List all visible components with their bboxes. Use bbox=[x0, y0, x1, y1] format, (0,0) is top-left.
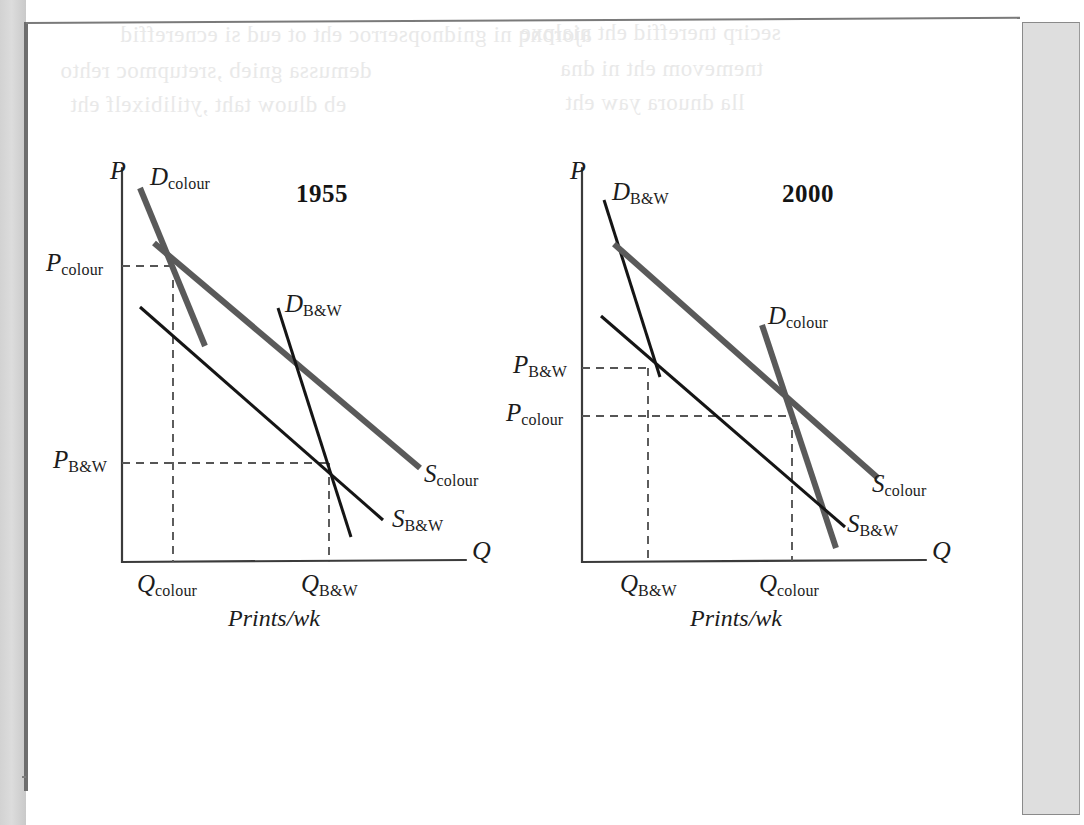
tick-label-q-bw-1955: QB&W bbox=[301, 570, 358, 600]
curve-s-bw-2000 bbox=[601, 316, 845, 527]
panel-1955-curves bbox=[140, 188, 420, 537]
curve-d-colour-2000 bbox=[762, 325, 836, 548]
tick-label-p-colour-1955: Pcolour bbox=[46, 249, 103, 279]
curve-d-bw-2000 bbox=[604, 200, 660, 377]
tick-label-q-colour-1955: Qcolour bbox=[137, 570, 197, 600]
tick-label-q-bw-2000: QB&W bbox=[620, 570, 677, 600]
tick-symbol: P bbox=[513, 351, 528, 378]
curve-label-symbol: D bbox=[612, 178, 630, 205]
curve-label-s-bw-2000: SB&W bbox=[847, 510, 898, 540]
curve-label-d-colour-1955: Dcolour bbox=[150, 163, 210, 193]
panel-2000-guides bbox=[582, 368, 792, 562]
caption-1955: Prints/wk bbox=[228, 605, 320, 632]
curve-label-subscript: colour bbox=[885, 482, 927, 499]
tick-subscript: colour bbox=[521, 411, 563, 428]
curve-label-symbol: S bbox=[424, 460, 437, 487]
tick-subscript: B&W bbox=[68, 458, 107, 475]
tick-symbol: P bbox=[506, 399, 521, 426]
tick-label-p-colour-2000: Pcolour bbox=[506, 399, 563, 429]
year-label-2000: 2000 bbox=[782, 180, 834, 208]
economics-figure: P Q 1955 Dcolour DB&W Scolour SB&W Pcolo… bbox=[0, 0, 1084, 825]
tick-subscript: B&W bbox=[528, 363, 567, 380]
curve-label-s-colour-2000: Scolour bbox=[872, 470, 927, 500]
curve-label-symbol: S bbox=[392, 505, 405, 532]
tick-subscript: B&W bbox=[638, 582, 677, 599]
tick-label-p-bw-1955: PB&W bbox=[53, 446, 107, 476]
curve-label-subscript: B&W bbox=[630, 190, 669, 207]
tick-symbol: P bbox=[53, 446, 68, 473]
tick-symbol: P bbox=[46, 249, 61, 276]
curve-label-symbol: S bbox=[872, 470, 885, 497]
scanned-page: ajoronq ni gnidnopserroc eht ot eud si e… bbox=[0, 0, 1084, 825]
curve-label-s-bw-1955: SB&W bbox=[392, 505, 443, 535]
curve-label-d-bw-1955: DB&W bbox=[285, 290, 342, 320]
curve-label-symbol: D bbox=[285, 290, 303, 317]
curve-s-bw-1955 bbox=[140, 307, 383, 520]
tick-label-p-bw-2000: PB&W bbox=[513, 351, 567, 381]
caption-2000: Prints/wk bbox=[690, 605, 782, 632]
tick-subscript: B&W bbox=[319, 582, 358, 599]
tick-subscript: colour bbox=[777, 582, 819, 599]
tick-symbol: Q bbox=[301, 570, 319, 597]
axis-label-q-2000: Q bbox=[932, 536, 951, 566]
curve-label-symbol: S bbox=[847, 510, 860, 537]
tick-label-q-colour-2000: Qcolour bbox=[759, 570, 819, 600]
axis-label-q-1955: Q bbox=[472, 536, 491, 566]
year-label-1955: 1955 bbox=[296, 180, 348, 208]
curve-d-bw-1955 bbox=[278, 308, 351, 537]
curve-label-d-bw-2000: DB&W bbox=[612, 178, 669, 208]
tick-symbol: Q bbox=[759, 570, 777, 597]
curve-label-symbol: D bbox=[150, 163, 168, 190]
axis-label-p-2000: P bbox=[570, 156, 586, 186]
curve-label-subscript: colour bbox=[786, 314, 828, 331]
curve-label-subscript: colour bbox=[437, 472, 479, 489]
curve-label-subscript: B&W bbox=[405, 517, 444, 534]
curve-label-s-colour-1955: Scolour bbox=[424, 460, 479, 490]
tick-symbol: Q bbox=[137, 570, 155, 597]
curve-label-subscript: B&W bbox=[860, 522, 899, 539]
tick-symbol: Q bbox=[620, 570, 638, 597]
axis-label-p-1955: P bbox=[110, 156, 126, 186]
curve-label-subscript: colour bbox=[168, 175, 210, 192]
curve-label-symbol: D bbox=[768, 302, 786, 329]
panel-2000-curves bbox=[601, 200, 878, 548]
tick-subscript: colour bbox=[155, 582, 197, 599]
curve-label-subscript: B&W bbox=[303, 302, 342, 319]
tick-subscript: colour bbox=[61, 261, 103, 278]
curve-label-d-colour-2000: Dcolour bbox=[768, 302, 828, 332]
